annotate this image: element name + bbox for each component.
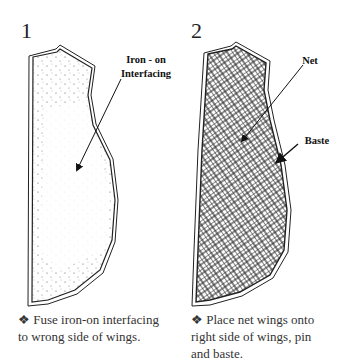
wing-shape-2 <box>192 42 291 306</box>
caption-text: Place net wings onto <box>206 312 314 327</box>
caption-text: Fuse iron-on interfacing <box>33 312 159 327</box>
caption-step-1: ❖ Fuse iron-on interfacing to wrong side… <box>18 311 178 345</box>
label-line: Iron - on <box>108 53 184 67</box>
caption-line: ❖ Fuse iron-on interfacing <box>18 311 178 328</box>
caption-line: and baste. <box>191 345 343 361</box>
step-number-1: 1 <box>21 18 32 44</box>
label-net: Net <box>298 54 322 68</box>
label-iron-on-interfacing: Iron - on Interfacing <box>108 53 184 81</box>
caption-line: right side of wings, pin <box>191 328 343 345</box>
caption-line: to wrong side of wings. <box>18 328 178 345</box>
caption-step-2: ❖ Place net wings onto right side of win… <box>191 311 343 361</box>
step-number-2: 2 <box>191 18 202 44</box>
label-line: Interfacing <box>108 67 184 81</box>
label-baste: Baste <box>299 134 335 148</box>
bullet-icon: ❖ <box>18 312 30 327</box>
bullet-icon: ❖ <box>191 312 203 327</box>
wing-shape-1 <box>28 45 118 306</box>
caption-line: ❖ Place net wings onto <box>191 311 343 328</box>
